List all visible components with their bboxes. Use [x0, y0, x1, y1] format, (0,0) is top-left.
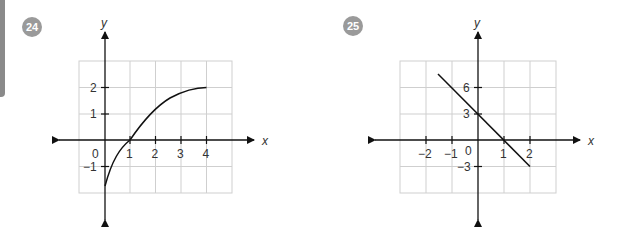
svg-text:1: 1	[500, 147, 507, 161]
origin-label: 0	[92, 147, 99, 161]
svg-text:2: 2	[90, 81, 97, 95]
svg-text:2: 2	[526, 147, 533, 161]
svg-text:−1: −1	[444, 147, 458, 161]
y-axis-label: y	[473, 16, 481, 30]
graph-24: y x 0 1 2 3 4 2 1 −1	[59, 16, 269, 220]
svg-text:2: 2	[152, 147, 159, 161]
svg-text:1: 1	[126, 147, 133, 161]
grid	[79, 61, 232, 193]
svg-text:−3: −3	[457, 160, 471, 174]
svg-text:1: 1	[90, 107, 97, 121]
svg-text:3: 3	[177, 147, 184, 161]
x-axis-label: x	[261, 134, 269, 148]
svg-text:−2: −2	[418, 147, 432, 161]
origin-label: 0	[465, 144, 472, 158]
svg-text:6: 6	[463, 81, 470, 95]
svg-text:−1: −1	[83, 160, 97, 174]
y-axis-label: y	[100, 16, 108, 30]
svg-text:4: 4	[203, 147, 210, 161]
svg-text:3: 3	[463, 107, 470, 121]
graphs: y x 0 1 2 3 4 2 1 −1 y x 0 −2 −1	[0, 0, 621, 248]
graph-25: y x 0 −2 −1 1 2 6 3 −3	[375, 16, 595, 220]
x-axis-label: x	[587, 134, 595, 148]
